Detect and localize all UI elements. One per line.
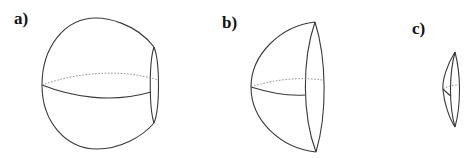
panel-c-rim-back (455, 52, 460, 127)
panel-b-shape (251, 22, 324, 152)
panel-a-cap-rim-back (154, 47, 159, 123)
panel-a-equator-back (42, 73, 158, 85)
panel-a-equator-front (42, 85, 151, 98)
panel-c-outline (443, 52, 455, 127)
panel-c-equator-front (443, 89, 451, 96)
panel-c-shape (443, 52, 460, 127)
panel-b-outline (251, 22, 316, 152)
panel-a-shape (42, 18, 159, 149)
panel-b-rim-back (315, 22, 324, 152)
panel-c-rim-front (451, 52, 456, 127)
panel-b-rim-front (305, 22, 316, 152)
panel-b-equator-front (251, 87, 305, 95)
panel-a-outline (42, 18, 154, 149)
panel-a-cap-rim-front (150, 47, 154, 123)
panel-b-equator-back (251, 79, 322, 87)
figure-canvas (0, 0, 473, 158)
